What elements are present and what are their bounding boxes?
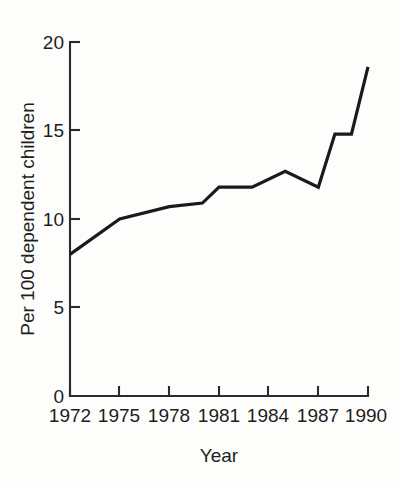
x-tick-label-1984: 1984 bbox=[247, 405, 290, 426]
x-tick-label-1972: 1972 bbox=[49, 405, 91, 426]
x-tick-label-1975: 1975 bbox=[98, 405, 140, 426]
y-tick-label-5: 5 bbox=[53, 297, 64, 318]
x-tick-label-1990: 1990 bbox=[345, 405, 387, 426]
chart-figure: 20 15 10 5 0 1972 1975 1978 1981 1984 19… bbox=[0, 0, 401, 486]
data-series-line bbox=[70, 67, 368, 255]
x-tick-label-1987: 1987 bbox=[297, 405, 339, 426]
y-tick-marks bbox=[70, 42, 80, 307]
x-tick-label-1978: 1978 bbox=[148, 405, 190, 426]
y-tick-label-0: 0 bbox=[53, 386, 64, 407]
y-axis-title: Per 100 dependent children bbox=[17, 102, 38, 335]
y-tick-label-10: 10 bbox=[43, 209, 64, 230]
x-tick-label-1981: 1981 bbox=[198, 405, 240, 426]
y-tick-label-15: 15 bbox=[43, 120, 64, 141]
y-tick-label-20: 20 bbox=[43, 32, 64, 53]
x-axis-title: Year bbox=[200, 445, 239, 466]
x-tick-marks bbox=[70, 386, 368, 396]
line-chart: 20 15 10 5 0 1972 1975 1978 1981 1984 19… bbox=[0, 0, 401, 486]
